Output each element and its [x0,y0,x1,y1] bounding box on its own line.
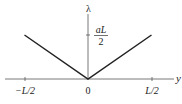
y-tick-label-denominator: 2 [99,36,104,47]
x-tick-label-zero: 0 [86,85,91,96]
y-axis-label: λ [86,3,91,14]
v-shape-diagram: y λ −L/2 0 L/2 aL 2 [0,0,182,104]
x-tick-label-pos: L/2 [144,85,158,96]
x-axis-label: y [175,72,181,84]
y-tick-label-numerator: aL [96,24,107,35]
x-tick-label-neg: −L/2 [15,85,35,96]
